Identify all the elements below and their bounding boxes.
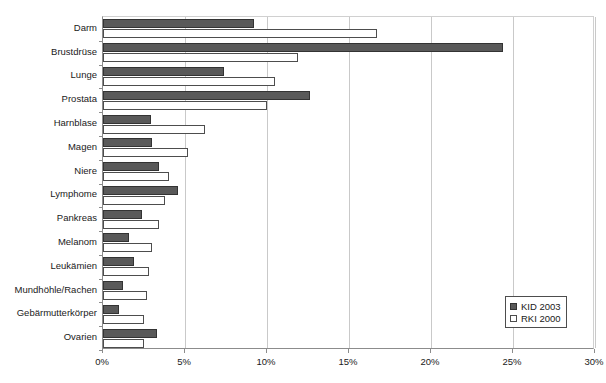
category-tick bbox=[99, 207, 103, 208]
category-label: Pankreas bbox=[0, 212, 97, 223]
bar-rki-2000 bbox=[103, 339, 144, 348]
bar-rki-2000 bbox=[103, 267, 149, 276]
bar-rki-2000 bbox=[103, 172, 169, 181]
bar-row bbox=[103, 136, 593, 160]
bar-rki-2000 bbox=[103, 315, 144, 324]
value-axis-labels: 0%5%10%15%20%25%30% bbox=[0, 356, 606, 372]
legend-label-rki-2000: RKI 2000 bbox=[521, 313, 561, 324]
value-tick bbox=[594, 349, 595, 353]
bar-rki-2000 bbox=[103, 125, 205, 134]
bar-row bbox=[103, 160, 593, 184]
category-label: Lunge bbox=[0, 69, 97, 80]
legend-swatch-icon-rki-2000 bbox=[510, 315, 517, 322]
category-label: Darm bbox=[0, 22, 97, 33]
value-tick bbox=[184, 349, 185, 353]
bar-row bbox=[103, 112, 593, 136]
bar-rki-2000 bbox=[103, 53, 298, 62]
category-label: Mundhöhle/Rachen bbox=[0, 284, 97, 295]
category-tick bbox=[99, 160, 103, 161]
bar-rki-2000 bbox=[103, 29, 377, 38]
category-label: Niere bbox=[0, 165, 97, 176]
category-tick bbox=[99, 231, 103, 232]
bar-kid-2003 bbox=[103, 162, 159, 171]
category-tick bbox=[99, 88, 103, 89]
bar-row bbox=[103, 255, 593, 279]
gridline bbox=[595, 17, 596, 348]
category-label: Leukämien bbox=[0, 260, 97, 271]
bar-kid-2003 bbox=[103, 281, 123, 290]
value-tick bbox=[266, 349, 267, 353]
category-label: Prostata bbox=[0, 93, 97, 104]
bar-row bbox=[103, 326, 593, 350]
bar-kid-2003 bbox=[103, 19, 254, 28]
bar-kid-2003 bbox=[103, 186, 178, 195]
bar-row bbox=[103, 207, 593, 231]
bar-chart: DarmBrustdrüseLungeProstataHarnblaseMage… bbox=[0, 0, 606, 383]
value-label: 15% bbox=[338, 356, 357, 367]
category-label: Lymphome bbox=[0, 188, 97, 199]
bar-rki-2000 bbox=[103, 148, 188, 157]
bar-rki-2000 bbox=[103, 291, 147, 300]
value-label: 0% bbox=[95, 356, 109, 367]
bar-row bbox=[103, 88, 593, 112]
value-label: 25% bbox=[502, 356, 521, 367]
category-tick bbox=[99, 136, 103, 137]
category-label: Magen bbox=[0, 141, 97, 152]
bar-kid-2003 bbox=[103, 67, 224, 76]
legend-item-kid-2003: KID 2003 bbox=[510, 300, 561, 312]
bar-rki-2000 bbox=[103, 243, 152, 252]
bar-kid-2003 bbox=[103, 329, 157, 338]
value-label: 30% bbox=[584, 356, 603, 367]
category-tick bbox=[99, 65, 103, 66]
value-axis-tick-marks bbox=[102, 349, 594, 354]
category-label: Gebärmutterkörper bbox=[0, 307, 97, 318]
category-tick bbox=[99, 112, 103, 113]
category-label: Melanom bbox=[0, 236, 97, 247]
bar-rki-2000 bbox=[103, 101, 267, 110]
bar-row bbox=[103, 184, 593, 208]
value-label: 10% bbox=[256, 356, 275, 367]
bar-kid-2003 bbox=[103, 138, 152, 147]
value-tick bbox=[512, 349, 513, 353]
bar-kid-2003 bbox=[103, 305, 119, 314]
value-label: 20% bbox=[420, 356, 439, 367]
value-tick bbox=[102, 349, 103, 353]
bar-kid-2003 bbox=[103, 257, 134, 266]
bar-rki-2000 bbox=[103, 77, 275, 86]
chart-legend: KID 2003 RKI 2000 bbox=[505, 296, 567, 328]
category-tick bbox=[99, 184, 103, 185]
legend-label-kid-2003: KID 2003 bbox=[521, 301, 561, 312]
bar-row bbox=[103, 65, 593, 89]
bar-row bbox=[103, 231, 593, 255]
bar-kid-2003 bbox=[103, 115, 151, 124]
bar-kid-2003 bbox=[103, 91, 310, 100]
category-axis-labels: DarmBrustdrüseLungeProstataHarnblaseMage… bbox=[0, 16, 97, 349]
bar-row bbox=[103, 17, 593, 41]
category-tick bbox=[99, 326, 103, 327]
bar-kid-2003 bbox=[103, 233, 129, 242]
legend-swatch-icon-kid-2003 bbox=[510, 303, 517, 310]
value-label: 5% bbox=[177, 356, 191, 367]
bar-row bbox=[103, 41, 593, 65]
category-tick bbox=[99, 255, 103, 256]
category-tick bbox=[99, 41, 103, 42]
category-label: Ovarien bbox=[0, 331, 97, 342]
legend-item-rki-2000: RKI 2000 bbox=[510, 312, 561, 324]
value-tick bbox=[348, 349, 349, 353]
bar-kid-2003 bbox=[103, 43, 503, 52]
category-tick bbox=[99, 302, 103, 303]
category-label: Harnblase bbox=[0, 117, 97, 128]
category-label: Brustdrüse bbox=[0, 46, 97, 57]
bar-kid-2003 bbox=[103, 210, 142, 219]
category-tick bbox=[99, 279, 103, 280]
bar-rki-2000 bbox=[103, 196, 165, 205]
value-tick bbox=[430, 349, 431, 353]
bar-rki-2000 bbox=[103, 220, 159, 229]
